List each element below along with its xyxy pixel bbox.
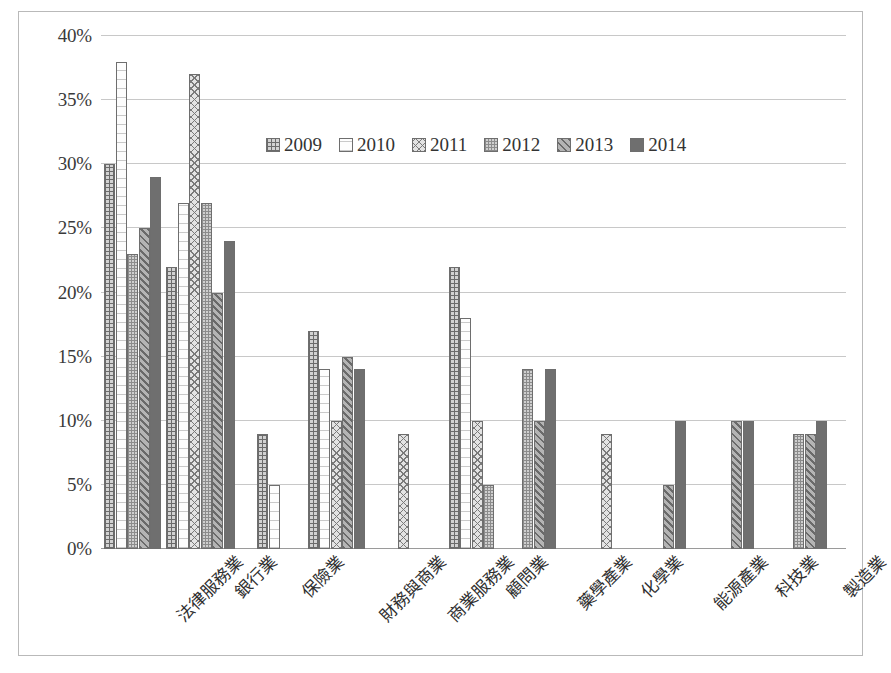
bar	[178, 203, 189, 549]
legend-swatch-icon	[484, 138, 498, 152]
bar	[472, 421, 483, 549]
legend-entry: 2009	[266, 134, 322, 156]
bar	[354, 369, 365, 549]
chart-frame: 0%5%10%15%20%25%30%35%40% 20092010201120…	[18, 11, 863, 656]
bar	[460, 318, 471, 549]
bar	[224, 241, 235, 549]
bar	[743, 421, 754, 549]
bar-group	[643, 36, 711, 549]
bar-group	[711, 36, 779, 549]
bar	[601, 434, 612, 549]
bar	[522, 369, 533, 549]
x-category-label: 製造業	[837, 549, 891, 603]
bar	[663, 485, 674, 549]
bar	[534, 421, 545, 549]
legend-entry: 2011	[412, 134, 467, 156]
x-category-label: 能源產業	[707, 549, 773, 615]
y-tick-label: 10%	[58, 410, 92, 432]
y-tick-label: 0%	[67, 538, 92, 560]
bar-group	[440, 36, 508, 549]
legend-swatch-icon	[339, 138, 353, 152]
bar	[675, 421, 686, 549]
legend-entry: 2010	[339, 134, 395, 156]
bar	[342, 357, 353, 549]
bar	[731, 421, 742, 549]
bar	[116, 62, 127, 549]
legend-label: 2014	[648, 134, 686, 156]
bar	[269, 485, 280, 549]
bar	[331, 421, 342, 549]
bar	[139, 228, 150, 549]
bar-group	[778, 36, 846, 549]
bar-group	[304, 36, 372, 549]
bar-series-layer	[101, 36, 846, 549]
y-tick-label: 15%	[58, 346, 92, 368]
legend-label: 2011	[430, 134, 467, 156]
bar	[201, 203, 212, 549]
x-axis-category-labels: 法律服務業銀行業保險業財務與商業商業服務業顧問業藥學產業化學業能源產業科技業製造…	[101, 549, 846, 657]
bar	[483, 485, 494, 549]
legend-swatch-icon	[557, 138, 571, 152]
bar	[545, 369, 556, 549]
bar	[150, 177, 161, 549]
chart-legend: 200920102011201220132014	[266, 134, 686, 156]
legend-label: 2010	[357, 134, 395, 156]
plot-area: 0%5%10%15%20%25%30%35%40%	[101, 36, 846, 549]
x-category-label: 保險業	[295, 549, 349, 603]
bar	[319, 369, 330, 549]
bar	[257, 434, 268, 549]
x-category-label: 科技業	[769, 549, 823, 603]
bar	[793, 434, 804, 549]
y-tick-label: 35%	[58, 89, 92, 111]
bar	[805, 434, 816, 549]
legend-entry: 2012	[484, 134, 540, 156]
x-category-label: 化學業	[634, 549, 688, 603]
x-category-label: 財務與商業	[373, 549, 451, 627]
y-tick-label: 40%	[58, 25, 92, 47]
y-tick-label: 20%	[58, 282, 92, 304]
bar-group	[169, 36, 237, 549]
bar-group	[575, 36, 643, 549]
bar	[212, 293, 223, 550]
bar-group	[236, 36, 304, 549]
bar	[104, 164, 115, 549]
legend-label: 2009	[284, 134, 322, 156]
y-tick-label: 5%	[67, 474, 92, 496]
legend-entry: 2014	[630, 134, 686, 156]
bar	[816, 421, 827, 549]
legend-swatch-icon	[266, 138, 280, 152]
legend-swatch-icon	[630, 138, 644, 152]
legend-label: 2012	[502, 134, 540, 156]
bar	[308, 331, 319, 549]
bar	[127, 254, 138, 549]
bar	[449, 267, 460, 549]
x-category-label: 藥學產業	[571, 549, 637, 615]
legend-entry: 2013	[557, 134, 613, 156]
legend-label: 2013	[575, 134, 613, 156]
bar	[166, 267, 177, 549]
bar-group	[507, 36, 575, 549]
bar	[398, 434, 409, 549]
bar	[189, 74, 200, 549]
bar-group	[372, 36, 440, 549]
y-tick-label: 25%	[58, 217, 92, 239]
legend-swatch-icon	[412, 138, 426, 152]
y-tick-label: 30%	[58, 153, 92, 175]
bar-group	[101, 36, 169, 549]
